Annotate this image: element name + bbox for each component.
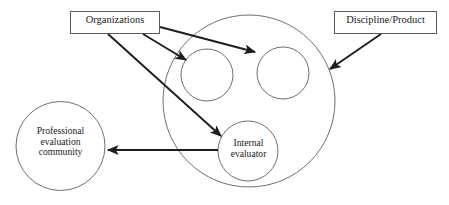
internal-evaluator-circle: [218, 121, 278, 181]
small-circle-right: [257, 47, 309, 99]
outer-context-circle: [163, 15, 335, 187]
small-circle-left: [181, 49, 233, 101]
professional-evaluation-community-circle: [16, 102, 105, 191]
discipline-product-box: [335, 12, 437, 34]
organizations-box: [71, 12, 160, 34]
arrow-organizations-to-small-circle-left: [143, 34, 186, 60]
arrow-organizations-to-small-circle-right: [160, 27, 255, 52]
diagram-vector-layer: [0, 0, 449, 205]
arrow-discipline-product-to-outer-context: [330, 34, 381, 69]
diagram-canvas: Organizations Discipline/Product Profess…: [0, 0, 449, 205]
